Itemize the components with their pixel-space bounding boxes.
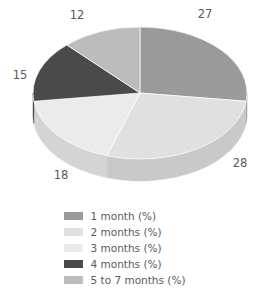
pie-slice bbox=[140, 27, 247, 101]
chart-legend: 1 month (%)2 months (%)3 months (%)4 mon… bbox=[0, 208, 265, 299]
legend-item[interactable]: 4 months (%) bbox=[64, 256, 202, 272]
legend-item-label: 5 to 7 months (%) bbox=[91, 272, 186, 288]
legend-item[interactable]: 3 months (%) bbox=[64, 240, 202, 256]
pie-plot-area: 2728181512 bbox=[0, 0, 265, 200]
legend-item[interactable]: 5 to 7 months (%) bbox=[64, 272, 202, 288]
slice-value-label: 12 bbox=[70, 8, 85, 22]
slice-value-label: 28 bbox=[233, 156, 248, 170]
slice-value-label: 27 bbox=[198, 7, 213, 21]
slice-value-label: 18 bbox=[54, 168, 69, 182]
legend-item-label: 1 month (%) bbox=[91, 208, 157, 224]
legend-swatch-icon bbox=[64, 212, 83, 220]
legend-swatch-icon bbox=[64, 260, 83, 268]
legend-item-label: 3 months (%) bbox=[91, 240, 162, 256]
legend-swatch-icon bbox=[64, 244, 83, 252]
pie-chart: 2728181512 1 month (%)2 months (%)3 mont… bbox=[0, 0, 265, 299]
legend-swatch-icon bbox=[64, 276, 83, 284]
slice-value-label: 15 bbox=[13, 68, 28, 82]
pie-svg: 2728181512 bbox=[0, 0, 265, 200]
legend-item[interactable]: 1 month (%) bbox=[64, 208, 202, 224]
legend-item[interactable]: 2 months (%) bbox=[64, 224, 202, 240]
legend-swatch-icon bbox=[64, 228, 83, 236]
legend-item-label: 2 months (%) bbox=[91, 224, 162, 240]
legend-item-label: 4 months (%) bbox=[91, 256, 162, 272]
pie-slice-tops bbox=[33, 27, 247, 159]
